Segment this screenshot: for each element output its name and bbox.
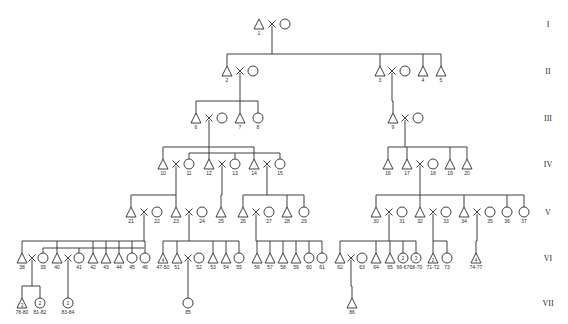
female-individual: 283-84 xyxy=(62,298,75,315)
individual-number: 34 xyxy=(461,218,467,224)
individual-number: 61 xyxy=(319,264,325,270)
male-individual: 42 xyxy=(88,253,98,270)
individual-number: 30 xyxy=(373,218,379,224)
individual-number: 19 xyxy=(447,170,453,176)
individual-number: 18 xyxy=(430,170,436,176)
female-individual xyxy=(280,19,290,29)
circle-female-icon xyxy=(428,159,438,169)
circle-female-icon xyxy=(413,113,423,123)
triangle-male-icon xyxy=(249,159,259,169)
individual-number: 64 xyxy=(373,264,379,270)
triangle-male-icon xyxy=(291,253,301,263)
triangle-male-icon xyxy=(445,159,455,169)
male-individual: 6 xyxy=(191,113,201,130)
individual-number: 26 xyxy=(240,218,246,224)
male-individual: 86 xyxy=(347,298,357,315)
circle-female-icon xyxy=(442,253,452,263)
female-individual: 27 xyxy=(264,207,274,224)
female-individual: 24 xyxy=(197,207,207,224)
male-individual: 271-72 xyxy=(427,253,440,270)
individual-number: 13 xyxy=(232,170,238,176)
male-individual: 378-80 xyxy=(16,298,29,315)
generation-label: V xyxy=(545,208,551,217)
male-individual: 23 xyxy=(171,207,181,224)
male-individual: 7 xyxy=(235,113,245,130)
triangle-male-icon xyxy=(462,159,472,169)
female-individual: 15 xyxy=(275,159,285,176)
individual-number: 45 xyxy=(129,264,135,270)
triangle-male-icon xyxy=(235,113,245,123)
individual-number: 4 xyxy=(422,77,425,83)
triangle-male-icon xyxy=(252,253,262,263)
female-individual: 31 xyxy=(397,207,407,224)
individual-number: 17 xyxy=(404,170,410,176)
male-individual: 30 xyxy=(371,207,381,224)
triangle-male-icon xyxy=(375,66,385,76)
female-individual: 41 xyxy=(74,253,84,270)
male-individual: 14 xyxy=(249,159,259,176)
circle-female-icon xyxy=(230,159,240,169)
female-individual xyxy=(248,66,258,76)
individual-number: 9 xyxy=(392,124,395,130)
female-individual xyxy=(400,66,410,76)
female-individual: 37 xyxy=(519,207,529,224)
individual-number: 54 xyxy=(223,264,229,270)
female-individual: 52 xyxy=(194,253,204,270)
male-individual: 25 xyxy=(216,207,226,224)
circle-female-icon xyxy=(441,207,451,217)
female-individual: 22 xyxy=(152,207,162,224)
individual-number: 65 xyxy=(387,264,393,270)
circle-female-icon xyxy=(253,113,263,123)
individual-number: 83-84 xyxy=(62,309,75,315)
individual-number: 41 xyxy=(76,264,82,270)
individual-number: 43 xyxy=(103,264,109,270)
generation-label: VII xyxy=(542,299,553,308)
triangle-male-icon xyxy=(114,253,124,263)
female-individual: 13 xyxy=(230,159,240,176)
generation-label: II xyxy=(545,67,551,76)
individual-number: 21 xyxy=(128,218,134,224)
circle-female-icon xyxy=(38,253,48,263)
circle-female-icon xyxy=(217,113,227,123)
individuals: 1234567891011121314151617181920212223242… xyxy=(16,19,529,315)
triangle-male-icon xyxy=(282,207,292,217)
female-individual: 29 xyxy=(299,207,309,224)
individual-number: 78-80 xyxy=(16,309,29,315)
male-individual: 447-50 xyxy=(157,253,170,270)
circle-female-icon xyxy=(140,253,150,263)
circle-female-icon xyxy=(519,207,529,217)
individual-number: 39 xyxy=(40,264,46,270)
individual-number: 5 xyxy=(440,77,443,83)
individual-number: 11 xyxy=(186,170,191,176)
individual-number: 33 xyxy=(443,218,449,224)
triangle-male-icon xyxy=(158,159,168,169)
individual-number: 14 xyxy=(251,170,257,176)
female-individual: 281-82 xyxy=(34,298,47,315)
triangle-male-icon xyxy=(385,253,395,263)
individual-number: 74-77 xyxy=(470,264,483,270)
male-individual: 474-77 xyxy=(470,253,483,270)
individual-number: 57 xyxy=(267,264,273,270)
triangle-male-icon xyxy=(222,66,232,76)
individual-number: 16 xyxy=(385,170,391,176)
triangle-male-icon xyxy=(415,207,425,217)
individual-number: 10 xyxy=(160,170,166,176)
triangle-male-icon xyxy=(278,253,288,263)
circle-female-icon xyxy=(127,253,137,263)
individual-number: 53 xyxy=(210,264,216,270)
male-individual: 38 xyxy=(17,253,27,270)
triangle-male-icon xyxy=(191,113,201,123)
male-individual: 62 xyxy=(335,253,345,270)
individual-number: 55 xyxy=(236,264,242,270)
male-individual: 56 xyxy=(252,253,262,270)
female-individual xyxy=(217,113,227,123)
male-individual: 1 xyxy=(254,19,264,36)
individual-number: 86 xyxy=(349,309,355,315)
individual-number: 27 xyxy=(266,218,272,224)
female-individual: 85 xyxy=(183,298,193,315)
individual-number: 1 xyxy=(258,30,261,36)
female-individual: 39 xyxy=(38,253,48,270)
circle-female-icon xyxy=(485,207,495,217)
triangle-male-icon xyxy=(418,66,428,76)
triangle-male-icon xyxy=(371,253,381,263)
